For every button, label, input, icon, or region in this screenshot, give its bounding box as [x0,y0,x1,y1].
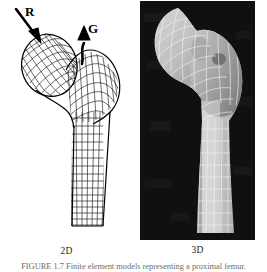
femur-3d-shaded-svg [140,1,255,240]
femur-2d-wireframe-svg [0,0,133,245]
force-label-G: G [88,22,98,35]
figure-container: R G [0,0,267,272]
panel-caption-2d: 2D [0,246,133,256]
femoral-head-mesh [21,34,86,103]
force-label-R: R [25,5,34,18]
femoral-shaft-mesh [69,112,112,226]
figure-caption: FIGURE 1.7 Finite element models represe… [0,262,267,272]
shaft-right-outline [103,112,110,226]
panel-2d-wireframe: R G [0,0,133,245]
shaft-left-outline [72,126,74,226]
panel-3d-shaded [140,1,255,240]
panel-caption-3d: 3D [140,245,255,255]
